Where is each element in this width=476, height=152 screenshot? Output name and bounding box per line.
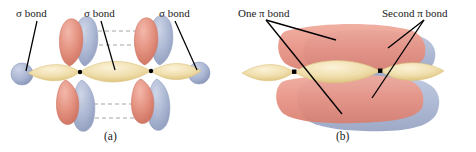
caption-panel-b: (b) <box>336 130 349 142</box>
sigma-lobe-left-outer <box>28 65 80 81</box>
label-one-pi-bond: One π bond <box>238 8 289 19</box>
carbon-atom-dot-right-b <box>378 69 382 73</box>
orbital-figure: σ bond σ bond σ bond (a) <box>0 0 476 152</box>
label-sigma-bond-center: σ bond <box>84 8 115 19</box>
panel-b: One π bond Second π bond (b) <box>238 0 476 152</box>
leader-sigma-right <box>175 21 197 70</box>
sigma-bond-lobes-b <box>242 61 444 83</box>
sigma-bond-lobes <box>28 61 201 82</box>
p-lobe-red-lower-left <box>56 80 78 125</box>
p-orbital-upper-blue <box>75 15 172 66</box>
panel-a-graphic <box>0 0 238 152</box>
panel-b-graphic <box>238 0 476 152</box>
carbon-atom-dot-left <box>78 70 82 74</box>
label-sigma-bond-right: σ bond <box>159 8 190 19</box>
carbon-atom-dot-right <box>149 69 153 73</box>
carbon-atom-dot-left-b <box>292 70 296 74</box>
p-lobe-red-lower-right <box>131 79 153 124</box>
p-orbital-lower-lobes <box>72 79 169 131</box>
label-second-pi-bond: Second π bond <box>382 8 447 19</box>
pi-cloud-red-lower <box>276 75 423 123</box>
panel-a: σ bond σ bond σ bond (a) <box>0 0 238 152</box>
caption-panel-a: (a) <box>104 130 117 142</box>
sigma-lobe-center <box>80 61 151 82</box>
label-sigma-bond-left: σ bond <box>16 8 47 19</box>
sigma-lobe-left-outer-b <box>242 65 294 81</box>
leader-sigma-left <box>26 21 37 71</box>
p-orbital-upper-red <box>59 18 157 66</box>
